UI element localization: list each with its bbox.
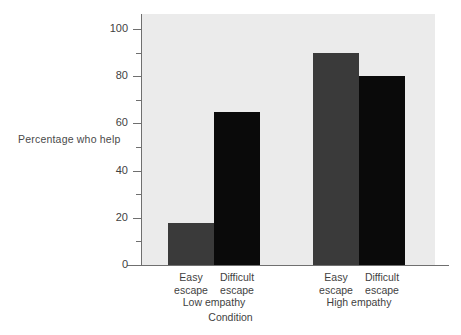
bar-category-label: Difficultescape (352, 271, 412, 296)
bar (168, 223, 214, 265)
group-label: Low empathy (148, 296, 280, 308)
bar-category-label-line2: escape (207, 284, 267, 297)
bar-chart: Percentage who help 100806040200 Easyesc… (0, 0, 461, 335)
group-label: High empathy (293, 296, 425, 308)
bar-category-label-line1: Difficult (207, 271, 267, 284)
bar-category-label-line2: escape (352, 284, 412, 297)
bar-category-label: Difficultescape (207, 271, 267, 296)
x-axis-label: Condition (0, 311, 461, 323)
bar (214, 112, 260, 265)
bar (313, 53, 359, 265)
bar-category-label-line1: Difficult (352, 271, 412, 284)
bar (359, 76, 405, 265)
